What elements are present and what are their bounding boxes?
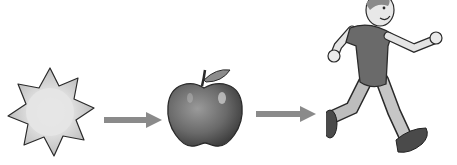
arrow-apple-to-runner [256, 106, 316, 122]
runner-node: Running boy [326, 0, 454, 160]
sun-node: Sun [4, 66, 96, 158]
arrow-right-icon [104, 112, 162, 128]
apple-node: Apple [164, 66, 246, 150]
running-boy-icon [326, 0, 454, 160]
apple-icon [164, 66, 246, 150]
arrow-sun-to-apple [104, 112, 162, 128]
arrow-right-icon [256, 106, 316, 122]
sun-icon [4, 66, 96, 158]
